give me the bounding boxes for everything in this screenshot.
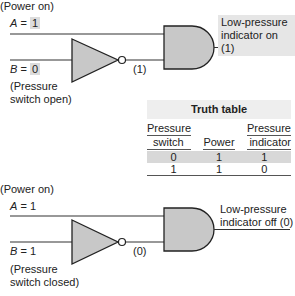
header-switch-line1: Pressure [147,122,191,136]
top-inverter-output-label: (1) [133,63,146,76]
top-output-label-line2: indicator on (1) [221,29,292,55]
header-indicator-line1: Pressure [247,122,291,136]
bottom-a-label: A = 1 [10,200,36,213]
bottom-output-label: Low-pressure indicator off (0) [220,203,293,229]
top-b-value: 0 [30,63,40,75]
top-a-value: 1 [30,17,40,29]
top-output-label: Low-pressure indicator on (1) [218,15,295,56]
truth-table-header-row: Pressureswitch Power Pressureindicator [147,119,291,151]
top-power-label: (Power on) [0,0,54,13]
header-switch-line2: switch [153,136,184,148]
top-inverter-bubble-icon [119,57,126,64]
truth-table: Truth table Pressureswitch Power Pressur… [147,100,291,176]
cell-switch: 1 [147,163,200,176]
cell-indicator: 0 [238,163,291,176]
top-a-eq: = [17,17,30,29]
top-inverter-icon [72,39,118,82]
bottom-inverter-bubble-icon [119,239,126,246]
bottom-a-eq: = [17,200,30,212]
bottom-switch-label-line1: (Pressure [10,263,79,276]
cell-switch: 0 [147,151,200,163]
top-b-eq: = [17,63,30,75]
bottom-b-value: 1 [30,245,36,257]
bottom-a-value: 1 [30,200,36,212]
truth-table-header-indicator: Pressureindicator [238,119,291,151]
header-indicator-line2: indicator [249,136,291,148]
bottom-power-label: (Power on) [0,183,54,196]
top-switch-label-line1: (Pressure [10,80,72,93]
cell-indicator: 1 [238,151,291,163]
cell-power: 1 [200,151,238,163]
bottom-and-gate-icon [164,208,214,251]
bottom-output-label-line1: Low-pressure [220,203,293,216]
header-power: Power [203,136,234,150]
top-switch-label-line2: switch open) [10,93,72,106]
top-and-gate-icon [164,26,214,69]
table-row: 0 1 1 [147,151,291,163]
bottom-switch-label-line2: switch closed) [10,276,79,289]
top-output-label-line1: Low-pressure [221,16,292,29]
bottom-b-eq: = [17,245,30,257]
bottom-inverter-icon [72,220,118,264]
cell-power: 1 [200,163,238,176]
truth-table-header-switch: Pressureswitch [147,119,200,151]
table-row: 1 1 0 [147,163,291,176]
bottom-output-label-line2: indicator off (0) [220,216,293,229]
truth-table-title: Truth table [147,100,291,119]
truth-table-header-power: Power [200,119,238,151]
top-a-label: A = 1 [10,17,40,30]
truth-table-grid: Pressureswitch Power Pressureindicator 0… [147,119,291,176]
top-switch-label: (Pressure switch open) [10,80,72,106]
bottom-inverter-output-label: (0) [133,245,146,258]
bottom-switch-label: (Pressure switch closed) [10,263,79,289]
top-b-label: B = 0 [10,63,40,76]
bottom-b-label: B = 1 [10,245,36,258]
